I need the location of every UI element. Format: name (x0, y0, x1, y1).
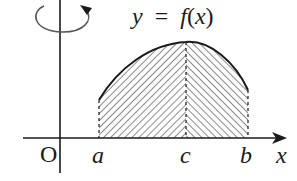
point-label-c: c (180, 142, 191, 168)
rotation-arrow-icon (36, 5, 92, 32)
point-label-b: b (240, 142, 252, 168)
point-label-a: a (92, 142, 104, 168)
hatched-region (99, 40, 248, 138)
function-label: y = f(x) (130, 3, 214, 29)
diagram-canvas: y = f(x) O a c b x (0, 0, 297, 181)
origin-label: O (40, 141, 57, 167)
x-axis-label: x (275, 142, 287, 168)
